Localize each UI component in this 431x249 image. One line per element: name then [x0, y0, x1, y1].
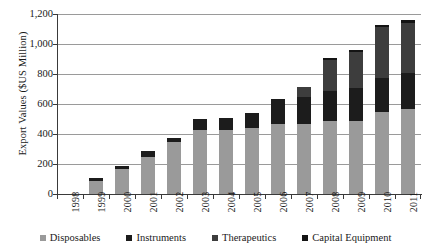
bar-slot: [213, 14, 239, 194]
bar-slot: [135, 14, 161, 194]
bar-segment-therapeutics[interactable]: [297, 87, 311, 97]
stacked-bar[interactable]: [401, 20, 415, 194]
stacked-bar[interactable]: [219, 118, 233, 195]
x-axis-label-cell: 2004: [213, 200, 239, 228]
bar-segment-instruments[interactable]: [375, 78, 389, 113]
stacked-bar[interactable]: [271, 99, 285, 194]
bar-segment-disposables[interactable]: [245, 128, 259, 194]
bar-segment-instruments[interactable]: [193, 119, 207, 130]
x-axis-tick-label: 2005: [252, 192, 263, 213]
legend-item[interactable]: Instruments: [126, 233, 186, 244]
legend-swatch-icon: [302, 235, 308, 241]
bar-segment-disposables[interactable]: [297, 124, 311, 195]
bar-segment-disposables[interactable]: [349, 121, 363, 195]
x-axis-tick-label: 2001: [148, 192, 159, 213]
x-axis-label-cell: 2010: [369, 200, 395, 228]
stacked-bar[interactable]: [167, 138, 181, 194]
y-axis-tick-mark: [53, 44, 57, 45]
x-axis-tick-label: 1999: [96, 192, 107, 213]
y-axis-tick-mark: [53, 194, 57, 195]
x-axis-tick-labels: 1998199920002001200220032004200520062007…: [57, 200, 421, 228]
x-axis-tick-label: 2010: [382, 192, 393, 213]
x-axis-label-cell: 2000: [109, 200, 135, 228]
y-axis-tick-mark: [53, 104, 57, 105]
stacked-bar[interactable]: [297, 87, 311, 194]
bar-segment-disposables[interactable]: [141, 157, 155, 195]
y-axis-tick-labels: 02004006008001,0001,200: [0, 14, 53, 194]
bar-slot: [83, 14, 109, 194]
bar-segment-disposables[interactable]: [401, 109, 415, 195]
bar-segment-instruments[interactable]: [349, 88, 363, 120]
bar-segment-instruments[interactable]: [245, 113, 259, 128]
bar-segment-disposables[interactable]: [167, 142, 181, 194]
bar-segment-instruments[interactable]: [297, 97, 311, 124]
y-axis-tick-mark: [53, 74, 57, 75]
y-axis-tick-label: 1,200: [5, 9, 53, 20]
bar-segment-disposables[interactable]: [271, 124, 285, 195]
x-axis-tick-label: 2003: [200, 192, 211, 213]
x-axis-tick-label: 2007: [304, 192, 315, 213]
bar-segment-therapeutics[interactable]: [401, 23, 415, 73]
y-axis-tick-mark: [53, 164, 57, 165]
legend-swatch-icon: [40, 235, 46, 241]
y-axis-tick-label: 400: [5, 129, 53, 140]
bar-slot: [317, 14, 343, 194]
x-axis-label-cell: 2006: [265, 200, 291, 228]
stacked-bar[interactable]: [349, 50, 363, 194]
bar-segment-disposables[interactable]: [219, 130, 233, 195]
bar-segment-instruments[interactable]: [271, 99, 285, 124]
bar-series-container: [57, 14, 421, 194]
bar-segment-therapeutics[interactable]: [349, 52, 363, 88]
stacked-bar[interactable]: [141, 151, 155, 194]
stacked-bar[interactable]: [245, 113, 259, 194]
bar-slot: [239, 14, 265, 194]
bar-segment-instruments[interactable]: [219, 118, 233, 130]
legend-swatch-icon: [212, 235, 218, 241]
x-axis-label-cell: 2001: [135, 200, 161, 228]
bar-segment-therapeutics[interactable]: [323, 60, 337, 92]
bar-slot: [187, 14, 213, 194]
y-axis-tick-label: 1,000: [5, 39, 53, 50]
chart-legend: DisposablesInstrumentsTherapeuticsCapita…: [0, 231, 431, 245]
bar-segment-instruments[interactable]: [323, 91, 337, 121]
x-axis-label-cell: 2003: [187, 200, 213, 228]
x-axis-tick-label: 2000: [122, 192, 133, 213]
x-axis-label-cell: 2009: [343, 200, 369, 228]
bar-segment-instruments[interactable]: [401, 73, 415, 109]
stacked-bar[interactable]: [323, 58, 337, 194]
x-axis-tick-label: 2004: [226, 192, 237, 213]
legend-label: Capital Equipment: [312, 233, 391, 244]
stacked-bar[interactable]: [375, 25, 389, 195]
x-axis-tick-label: 2006: [278, 192, 289, 213]
bar-segment-disposables[interactable]: [115, 169, 129, 195]
x-axis-label-cell: 2007: [291, 200, 317, 228]
legend-label: Instruments: [136, 233, 186, 244]
bar-segment-disposables[interactable]: [323, 121, 337, 194]
bar-slot: [369, 14, 395, 194]
bar-slot: [161, 14, 187, 194]
x-axis-tick-label: 1998: [70, 192, 81, 213]
x-axis-label-cell: 1998: [57, 200, 83, 228]
x-axis-tick-label: 2008: [330, 192, 341, 213]
bar-slot: [291, 14, 317, 194]
x-axis-label-cell: 2008: [317, 200, 343, 228]
stacked-bar-chart: Export Values ($US Million) 020040060080…: [0, 0, 431, 249]
bar-slot: [265, 14, 291, 194]
stacked-bar[interactable]: [193, 119, 207, 194]
legend-label: Therapeutics: [222, 233, 276, 244]
x-axis-tick-label: 2011: [408, 192, 419, 212]
bar-segment-disposables[interactable]: [193, 130, 207, 195]
x-axis-label-cell: 2002: [161, 200, 187, 228]
y-axis-tick-mark: [53, 14, 57, 15]
legend-item[interactable]: Therapeutics: [212, 233, 276, 244]
bar-segment-therapeutics[interactable]: [375, 27, 389, 78]
bar-segment-disposables[interactable]: [375, 112, 389, 194]
x-axis-tick-label: 2002: [174, 192, 185, 213]
legend-item[interactable]: Capital Equipment: [302, 233, 391, 244]
legend-item[interactable]: Disposables: [40, 233, 101, 244]
y-axis-tick-label: 200: [5, 159, 53, 170]
y-axis-tick-label: 0: [5, 189, 53, 200]
stacked-bar[interactable]: [115, 166, 129, 195]
bar-slot: [109, 14, 135, 194]
legend-swatch-icon: [126, 235, 132, 241]
